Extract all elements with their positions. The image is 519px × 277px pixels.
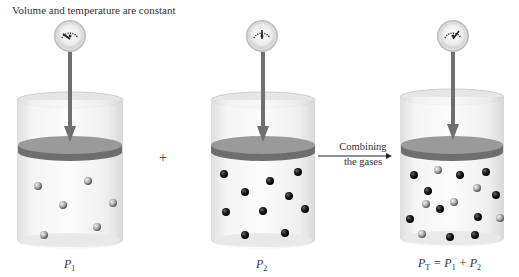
combining-label: Combining the gases (338, 139, 388, 169)
pressure-gauge-icon (437, 20, 469, 52)
combining-label-line1: Combining (338, 139, 388, 154)
label-sub: 2 (263, 264, 267, 273)
equation-sub: 2 (477, 263, 481, 272)
dalton-law-diagram (0, 0, 519, 277)
total-pressure-equation: PT = P1 + P2 (418, 256, 481, 272)
pressure-gauge-icon (246, 20, 278, 52)
piston-arrow-icon (261, 52, 265, 132)
pressure-label-p2: P2 (256, 257, 267, 273)
beaker-mixture (400, 20, 504, 247)
pressure-label-p1: P1 (64, 257, 75, 273)
plus-operator: + (159, 150, 167, 166)
equation-part: + P (456, 256, 477, 270)
piston-arrow-icon (68, 52, 72, 132)
pressure-gauge-icon (54, 20, 86, 52)
equation-part: = P (430, 256, 451, 270)
piston-arrow-icon (451, 52, 455, 130)
beaker-gas-2 (211, 20, 315, 249)
label-sub: 1 (71, 264, 75, 273)
combining-label-line2: the gases (338, 154, 388, 169)
beaker-gas-1 (17, 20, 123, 249)
